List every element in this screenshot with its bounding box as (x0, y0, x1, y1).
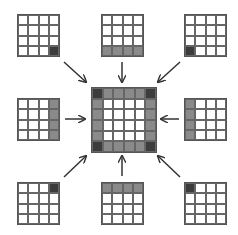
arrow-bottom-right-to-center (158, 156, 180, 177)
arrow-bottom-left-to-center (64, 156, 86, 177)
arrows-layer (0, 0, 238, 235)
arrow-top-left-to-center (64, 62, 86, 82)
arrow-top-right-to-center (158, 62, 180, 82)
